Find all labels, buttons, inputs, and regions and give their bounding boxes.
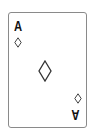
diamond-icon [14, 37, 22, 48]
diamond-icon-center [38, 60, 52, 82]
rank-label-bottom-right: A [72, 108, 80, 123]
playing-card-ace-of-diamonds[interactable]: A A [8, 12, 87, 128]
diamond-icon-bottom-right [74, 93, 82, 104]
rank-label-top-left: A [14, 18, 22, 33]
